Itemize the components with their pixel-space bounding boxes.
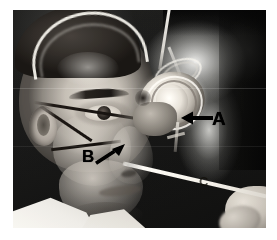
scan-artifact-line-upper (13, 88, 266, 89)
apparatus-mount-block (133, 102, 177, 136)
background-shadow-top (163, 10, 266, 36)
subject-ear-inner (37, 114, 50, 136)
callout-label-a: A (212, 109, 226, 128)
photograph-plate: A B C (13, 10, 266, 228)
callout-label-b: B (82, 148, 94, 165)
callout-arrow-b-icon (95, 144, 127, 170)
callout-label-c: C (199, 175, 208, 188)
apparatus-mount-aperture (135, 90, 151, 106)
optical-apparatus (131, 62, 209, 138)
callout-arrow-a-icon (181, 110, 215, 126)
scan-artifact-line-lower (13, 146, 266, 147)
figure-root: A B C (0, 0, 277, 240)
